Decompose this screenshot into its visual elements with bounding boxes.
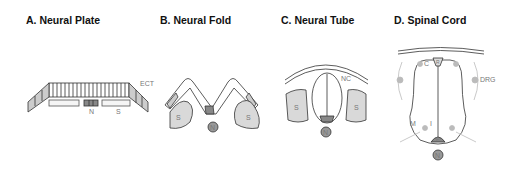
panel-d-spinal-cord [397, 48, 484, 161]
label-c-s-left: S [294, 104, 299, 111]
label-ect: ECT [140, 80, 155, 87]
label-d-n: N [435, 152, 440, 159]
label-drg: DRG [480, 76, 496, 83]
label-a-s: S [116, 108, 121, 115]
label-r: R [436, 59, 440, 65]
label-b-s-right: S [246, 114, 251, 121]
label-c-n: N [323, 129, 328, 136]
label-b-n: N [210, 124, 215, 131]
label-c-s-right: S [354, 104, 359, 111]
diagram-canvas: ECT N S S S N NC S S N [0, 0, 510, 170]
label-nc: NC [341, 75, 351, 82]
panel-c-neural-tube [285, 65, 368, 137]
label-f: F [436, 136, 439, 142]
label-a-n: N [89, 108, 94, 115]
label-m: M [410, 120, 416, 127]
label-c-commissural: C [424, 60, 429, 67]
label-b-s-left: S [176, 114, 181, 121]
label-i: I [430, 120, 432, 127]
panel-a-neural-plate [28, 83, 148, 112]
